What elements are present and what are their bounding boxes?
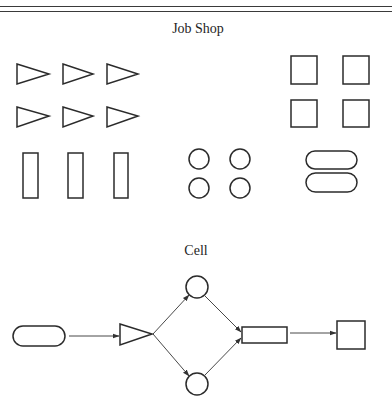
flow-arrow-circle_top-to-rect <box>205 296 241 332</box>
square-machine-shape <box>291 56 317 84</box>
circle-machine-shape <box>230 178 250 198</box>
cell-pill-shape <box>13 326 65 346</box>
rectangle-machine-shape <box>23 153 38 198</box>
triangle-machine-shape <box>63 64 93 84</box>
layout-diagram <box>0 0 392 410</box>
circle-machine-shape <box>230 149 250 169</box>
cell-triangle-shape <box>120 324 152 345</box>
flow-arrow-triangle-to-circle_top <box>153 295 189 334</box>
rectangle-machine-shape <box>68 153 83 198</box>
pill-machine-shape <box>306 173 357 192</box>
triangle-machine-shape <box>63 107 93 127</box>
square-machine-shape <box>343 100 369 127</box>
triangle-machine-shape <box>107 107 138 127</box>
square-machine-shape <box>343 56 369 84</box>
flow-arrow-circle_bottom-to-rect <box>205 338 241 375</box>
cell-rectangle-shape <box>242 327 287 343</box>
circle-machine-shape <box>189 178 209 198</box>
triangle-machine-shape <box>107 64 138 84</box>
cell-layout <box>13 276 365 395</box>
cell-circle-bottom-shape <box>186 373 208 395</box>
square-machine-shape <box>291 100 317 127</box>
job-shop-layout <box>17 56 369 198</box>
triangle-machine-shape <box>17 64 49 84</box>
circle-machine-shape <box>189 149 209 169</box>
triangle-machine-shape <box>17 107 49 127</box>
rectangle-machine-shape <box>114 153 128 198</box>
cell-square-shape <box>337 321 365 349</box>
pill-machine-shape <box>306 151 357 169</box>
flow-arrow-triangle-to-circle_bottom <box>153 334 189 376</box>
cell-circle-top-shape <box>186 276 208 298</box>
